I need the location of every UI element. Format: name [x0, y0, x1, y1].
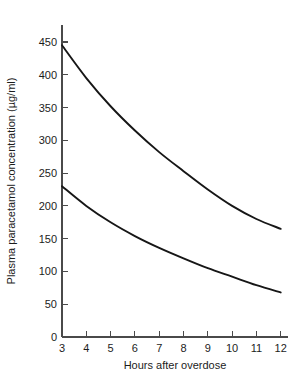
- y-tick-label: 450: [39, 36, 57, 48]
- paracetamol-nomogram-plot: 050100150200250300350400450 345678910111…: [0, 0, 296, 374]
- x-tick-label: 7: [156, 342, 162, 354]
- y-axis-ticks: 050100150200250300350400450: [39, 36, 68, 343]
- data-curves: [62, 45, 281, 292]
- x-tick-label: 12: [275, 342, 287, 354]
- y-tick-label: 50: [45, 298, 57, 310]
- y-tick-label: 350: [39, 102, 57, 114]
- data-curve: [62, 45, 281, 229]
- x-tick-label: 4: [83, 342, 89, 354]
- y-axis-title: Plasma paracetamol concentration (µg/ml): [5, 78, 17, 285]
- y-tick-label: 200: [39, 200, 57, 212]
- x-tick-label: 5: [108, 342, 114, 354]
- x-tick-label: 6: [132, 342, 138, 354]
- x-axis-title: Hours after overdose: [124, 359, 227, 371]
- x-tick-label: 11: [251, 342, 262, 354]
- y-tick-label: 0: [51, 331, 57, 343]
- y-tick-label: 100: [39, 265, 57, 277]
- y-tick-label: 400: [39, 69, 57, 81]
- y-tick-label: 250: [39, 167, 57, 179]
- data-curve: [62, 186, 281, 292]
- x-tick-label: 10: [226, 342, 238, 354]
- chart-figure: 050100150200250300350400450 345678910111…: [0, 0, 296, 374]
- y-tick-label: 150: [39, 233, 57, 245]
- y-tick-label: 300: [39, 134, 57, 146]
- x-tick-label: 9: [205, 342, 211, 354]
- x-tick-label: 8: [180, 342, 186, 354]
- x-tick-label: 3: [59, 342, 65, 354]
- x-axis-ticks: 3456789101112: [59, 331, 287, 354]
